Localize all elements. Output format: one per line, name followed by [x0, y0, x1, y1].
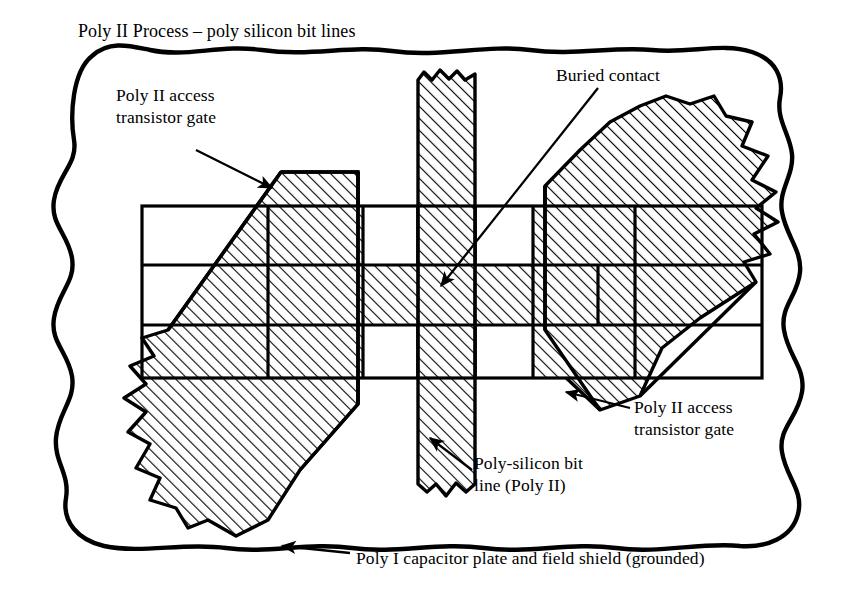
label-gate-left: Poly II access transistor gate: [116, 84, 216, 128]
label-poly1-shield-line1: Poly I capacitor plate and field shield …: [356, 547, 705, 569]
label-poly1-shield: Poly I capacitor plate and field shield …: [356, 547, 705, 569]
label-gate-right-line1: Poly II access: [634, 396, 734, 418]
label-gate-right: Poly II access transistor gate: [634, 396, 734, 440]
figure-canvas: Poly II Process – poly silicon bit lines…: [0, 0, 858, 597]
label-bit-line: Poly-silicon bit line (Poly II): [474, 452, 583, 496]
figure-title-text: Poly II Process – poly silicon bit lines: [78, 20, 356, 42]
arrow-gate-left: [196, 150, 272, 188]
figure-title: Poly II Process – poly silicon bit lines: [78, 20, 356, 42]
label-buried-contact: Buried contact: [556, 64, 660, 86]
label-gate-right-line2: transistor gate: [634, 418, 734, 440]
label-bit-line-line1: Poly-silicon bit: [474, 452, 583, 474]
label-gate-left-line1: Poly II access: [116, 84, 216, 106]
label-gate-left-line2: transistor gate: [116, 106, 216, 128]
label-buried-contact-line1: Buried contact: [556, 64, 660, 86]
label-bit-line-line2: line (Poly II): [474, 474, 583, 496]
